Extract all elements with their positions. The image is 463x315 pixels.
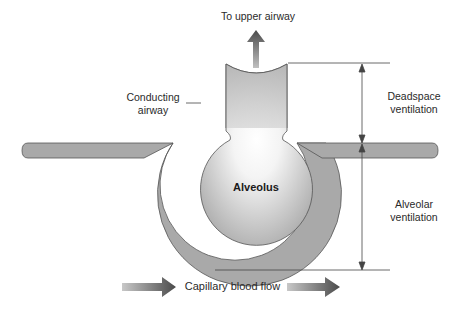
right-tissue-bar xyxy=(297,143,438,158)
upper-airway-arrow-icon xyxy=(247,30,265,68)
deadspace-arrow-up-icon xyxy=(359,64,365,72)
diagram-canvas xyxy=(0,0,463,315)
alveolar-arrow-down-icon xyxy=(359,262,365,270)
upper-airway-label: To upper airway xyxy=(193,10,323,23)
blood-flow-arrow-left-icon xyxy=(122,277,176,297)
deadspace-arrow-down-icon xyxy=(359,135,365,143)
conducting-airway-label: Conducting airway xyxy=(118,91,188,117)
alveolar-ventilation-label: Alveolar ventilation xyxy=(365,198,463,224)
blood-flow-arrow-right-icon xyxy=(287,277,340,297)
conducting-airway-tube xyxy=(226,64,287,128)
alveolus-label: Alveolus xyxy=(206,181,306,194)
capillary-blood-flow-label: Capillary blood flow xyxy=(180,280,285,293)
left-tissue-bar xyxy=(22,143,173,158)
deadspace-ventilation-label: Deadspace ventilation xyxy=(365,90,463,116)
airway-and-alveolus xyxy=(201,64,313,245)
